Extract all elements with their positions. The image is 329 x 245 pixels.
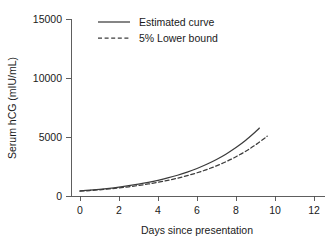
y-tick-label-5000: 5000 xyxy=(39,131,63,143)
x-tick-label-12: 12 xyxy=(308,204,320,216)
chart-plot-area: 15000 10000 5000 0 Serum hCG (mIU/mL) 0 … xyxy=(0,0,329,245)
chart-legend: Estimated curve 5% Lower bound xyxy=(98,16,218,44)
y-tick-marks xyxy=(66,19,71,196)
x-tick-label-8: 8 xyxy=(233,204,239,216)
data-series-group xyxy=(80,128,267,191)
x-tick-label-0: 0 xyxy=(77,204,83,216)
x-tick-marks xyxy=(80,196,314,201)
x-axis-title: Days since presentation xyxy=(141,224,253,236)
y-tick-label-15000: 15000 xyxy=(33,13,62,25)
y-tick-label-0: 0 xyxy=(56,190,62,202)
x-tick-label-10: 10 xyxy=(269,204,281,216)
y-axis-title: Serum hCG (mIU/mL) xyxy=(6,57,18,159)
x-tick-label-2: 2 xyxy=(116,204,122,216)
legend-label-lower-bound: 5% Lower bound xyxy=(139,32,218,44)
y-axis: 15000 10000 5000 0 Serum hCG (mIU/mL) xyxy=(6,13,71,202)
x-tick-label-4: 4 xyxy=(155,204,161,216)
chart-figure: 15000 10000 5000 0 Serum hCG (mIU/mL) 0 … xyxy=(0,0,329,245)
legend-label-estimated-curve: Estimated curve xyxy=(139,16,214,28)
x-tick-label-6: 6 xyxy=(194,204,200,216)
y-tick-label-10000: 10000 xyxy=(33,72,62,84)
series-lower-bound xyxy=(80,136,267,191)
x-axis: 0 2 4 6 8 10 12 Days since presentation xyxy=(71,196,325,236)
series-estimated-curve xyxy=(80,128,259,191)
